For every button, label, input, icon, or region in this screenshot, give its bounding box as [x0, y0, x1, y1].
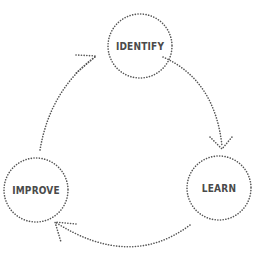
node-improve-label: IMPROVE — [12, 185, 60, 196]
edge-learn-to-improve-line — [55, 222, 190, 247]
edge-improve-to-identify — [40, 55, 96, 150]
edge-identify-to-learn — [163, 57, 232, 149]
edge-learn-to-improve — [55, 222, 190, 247]
cycle-diagram: IDENTIFY LEARN IMPROVE — [0, 0, 255, 265]
node-learn-label: LEARN — [202, 183, 236, 194]
node-identify: IDENTIFY — [108, 14, 172, 78]
node-identify-label: IDENTIFY — [116, 41, 165, 52]
edge-identify-to-learn-line — [163, 57, 222, 146]
edge-improve-to-identify-line — [40, 56, 96, 150]
node-improve: IMPROVE — [4, 158, 68, 222]
node-learn: LEARN — [187, 156, 251, 220]
